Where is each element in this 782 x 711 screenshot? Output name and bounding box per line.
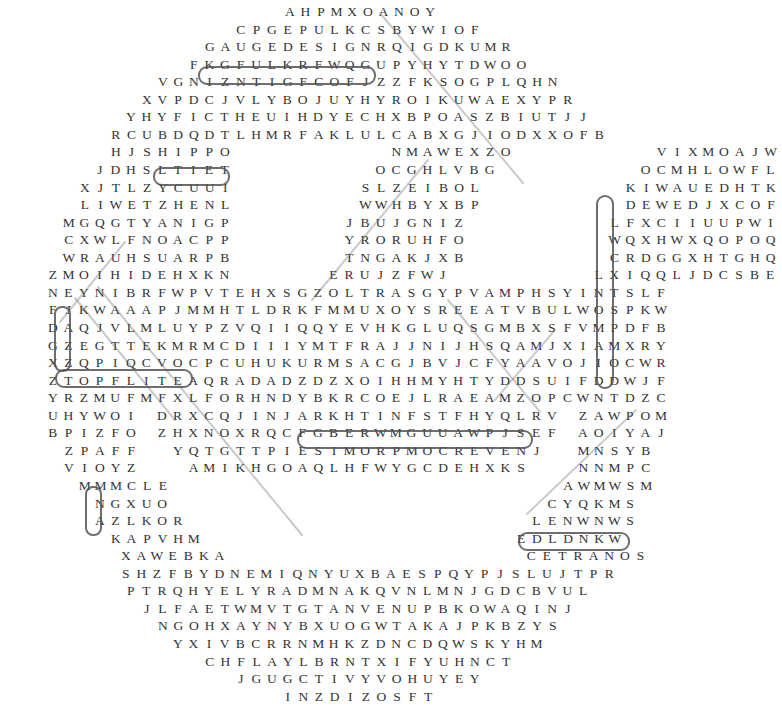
grid-letter[interactable]: X — [716, 197, 732, 213]
grid-letter[interactable]: N — [358, 39, 374, 55]
grid-letter[interactable]: U — [311, 22, 327, 38]
grid-letter[interactable] — [461, 548, 477, 564]
grid-letter[interactable]: R — [185, 338, 201, 354]
grid-letter[interactable]: Y — [342, 232, 358, 248]
grid-letter[interactable]: N — [389, 601, 405, 617]
grid-letter[interactable]: X — [388, 109, 404, 125]
grid-letter[interactable] — [232, 513, 248, 529]
grid-letter[interactable] — [513, 250, 529, 266]
grid-letter[interactable]: J — [92, 162, 108, 178]
grid-letter[interactable]: U — [358, 127, 374, 143]
grid-letter[interactable]: F — [467, 22, 483, 38]
grid-letter[interactable]: C — [124, 478, 140, 494]
grid-letter[interactable]: X — [77, 232, 93, 248]
grid-letter[interactable]: U — [435, 425, 451, 441]
grid-letter[interactable]: W — [763, 144, 779, 160]
grid-letter[interactable]: E — [670, 197, 686, 213]
grid-letter[interactable]: K — [326, 408, 342, 424]
grid-letter[interactable]: E — [326, 267, 342, 283]
grid-letter[interactable]: J — [653, 425, 669, 441]
grid-letter[interactable]: L — [467, 180, 483, 196]
grid-letter[interactable] — [591, 162, 607, 178]
grid-letter[interactable]: R — [327, 654, 343, 670]
grid-letter[interactable]: O — [528, 390, 544, 406]
grid-letter[interactable]: P — [477, 566, 493, 582]
grid-letter[interactable]: G — [467, 74, 483, 90]
grid-letter[interactable]: Q — [622, 232, 638, 248]
grid-letter[interactable]: M — [326, 302, 342, 318]
grid-letter[interactable]: Z — [373, 74, 389, 90]
grid-letter[interactable]: C — [201, 408, 217, 424]
grid-letter[interactable]: I — [217, 180, 233, 196]
grid-letter[interactable] — [202, 478, 218, 494]
grid-letter[interactable]: D — [310, 109, 326, 125]
grid-letter[interactable]: I — [263, 338, 279, 354]
grid-letter[interactable]: X — [435, 250, 451, 266]
grid-letter[interactable]: K — [420, 618, 436, 634]
grid-letter[interactable]: Y — [529, 618, 545, 634]
grid-letter[interactable]: I — [669, 144, 685, 160]
grid-letter[interactable] — [243, 548, 259, 564]
grid-letter[interactable]: T — [326, 338, 342, 354]
grid-letter[interactable]: W — [731, 162, 747, 178]
grid-letter[interactable]: K — [76, 302, 92, 318]
grid-letter[interactable]: D — [685, 197, 701, 213]
grid-letter[interactable]: O — [374, 689, 390, 705]
grid-letter[interactable] — [498, 180, 514, 196]
grid-letter[interactable]: A — [436, 618, 452, 634]
grid-letter[interactable]: R — [232, 390, 248, 406]
grid-letter[interactable] — [513, 496, 529, 512]
grid-letter[interactable]: I — [327, 671, 343, 687]
grid-letter[interactable] — [264, 478, 280, 494]
grid-letter[interactable]: T — [311, 671, 327, 687]
grid-letter[interactable]: D — [606, 373, 622, 389]
grid-letter[interactable]: I — [77, 460, 93, 476]
grid-letter[interactable]: M — [606, 338, 622, 354]
grid-letter[interactable]: N — [419, 338, 435, 354]
grid-letter[interactable]: N — [186, 74, 202, 90]
grid-letter[interactable]: R — [217, 373, 233, 389]
grid-letter[interactable]: B — [498, 618, 514, 634]
grid-letter[interactable]: D — [529, 531, 545, 547]
grid-letter[interactable]: F — [123, 443, 139, 459]
grid-letter[interactable]: R — [77, 250, 93, 266]
grid-letter[interactable]: I — [669, 215, 685, 231]
grid-letter[interactable]: F — [311, 57, 327, 73]
grid-letter[interactable]: H — [466, 460, 482, 476]
grid-letter[interactable]: J — [233, 671, 249, 687]
grid-letter[interactable]: F — [405, 689, 421, 705]
grid-letter[interactable]: O — [498, 127, 514, 143]
grid-letter[interactable]: M — [591, 320, 607, 336]
grid-letter[interactable] — [482, 496, 498, 512]
grid-letter[interactable]: A — [528, 355, 544, 371]
grid-letter[interactable]: P — [201, 232, 217, 248]
grid-letter[interactable]: W — [373, 460, 389, 476]
grid-letter[interactable]: O — [170, 355, 186, 371]
grid-letter[interactable]: V — [61, 460, 77, 476]
grid-letter[interactable] — [575, 162, 591, 178]
grid-letter[interactable]: T — [748, 180, 764, 196]
grid-letter[interactable]: G — [342, 39, 358, 55]
grid-letter[interactable]: T — [498, 654, 514, 670]
grid-letter[interactable]: D — [497, 373, 513, 389]
grid-letter[interactable] — [311, 144, 327, 160]
grid-letter[interactable] — [467, 531, 483, 547]
grid-letter[interactable]: M — [186, 531, 202, 547]
grid-letter[interactable] — [342, 197, 358, 213]
grid-letter[interactable] — [388, 496, 404, 512]
grid-letter[interactable]: L — [248, 302, 264, 318]
grid-letter[interactable]: R — [263, 583, 279, 599]
grid-letter[interactable]: R — [170, 513, 186, 529]
grid-letter[interactable]: M — [92, 390, 108, 406]
grid-letter[interactable]: E — [450, 302, 466, 318]
grid-letter[interactable]: O — [326, 285, 342, 301]
grid-letter[interactable]: E — [388, 390, 404, 406]
grid-letter[interactable]: F — [342, 74, 358, 90]
grid-letter[interactable] — [482, 267, 498, 283]
grid-letter[interactable]: E — [399, 566, 415, 582]
grid-letter[interactable]: S — [482, 338, 498, 354]
grid-letter[interactable]: N — [92, 285, 108, 301]
grid-letter[interactable]: W — [638, 355, 654, 371]
grid-letter[interactable]: D — [435, 460, 451, 476]
grid-letter[interactable]: Q — [76, 355, 92, 371]
